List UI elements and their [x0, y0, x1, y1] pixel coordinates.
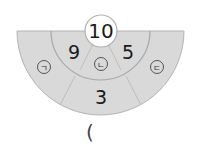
answer-blank-open-paren: ( [86, 122, 94, 142]
center-value: 10 [88, 19, 113, 43]
inner-right-value: 5 [122, 41, 134, 63]
label-right: ㄷ [153, 63, 161, 73]
label-middle: ㄴ [97, 60, 105, 70]
label-left: ㄱ [40, 63, 48, 73]
inner-left-value: 9 [68, 41, 80, 63]
outer-bottom-value: 3 [95, 86, 107, 108]
semicircle-number-diagram: 10 9 5 3 ㄱ ㄴ ㄷ [0, 0, 205, 158]
